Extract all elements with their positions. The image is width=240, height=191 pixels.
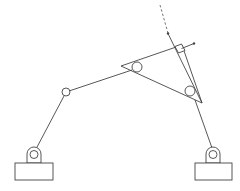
triangle-left-pin-icon [132,62,142,72]
left-ground-support [15,147,53,180]
triangle-right-pin-icon [185,86,195,96]
coupler-link [66,70,132,92]
perpendicular-line [182,44,195,49]
dashed-extension-line [160,5,168,33]
left-crank [36,96,64,149]
left-base-block [15,163,53,180]
right-base-block [195,163,232,180]
middle-pin-joint-icon [62,88,70,96]
left-pivot-pin-icon [30,151,38,159]
right-pivot-pin-icon [209,151,217,159]
perpendicular-endpoint-dot [193,42,195,44]
right-rocker [195,100,212,148]
mechanism-diagram [0,0,240,191]
right-ground-support [195,147,232,180]
